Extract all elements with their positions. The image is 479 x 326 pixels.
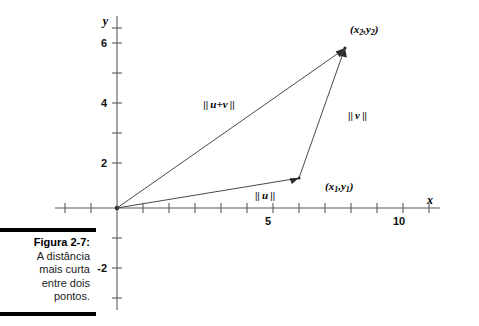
point-1-label: (x1,y1) [325,180,353,194]
caption-text: Figura 2-7: A distância mais curta entre… [0,232,96,304]
figure-page: 5 10 6 4 2 -2 x y || u+v || || v || || u… [0,0,479,326]
y-axis-label: y [101,14,109,28]
annotation-v: || v || [348,109,367,121]
caption-line-4: pontos. [0,290,90,304]
point-1-marker [297,176,300,179]
x-axis-label: x [426,193,433,207]
x-tick-label-5: 5 [265,215,271,227]
caption-line-2: mais curta [0,263,90,277]
x-tick-label-10: 10 [393,215,405,227]
caption-bottom-rule [0,312,96,316]
vector-v-line [299,51,344,179]
vector-u-arrowhead [290,178,299,184]
y-tick-label-4: 4 [101,97,108,109]
vector-u-plus-v-line [117,50,343,208]
caption-line-1: A distância [0,250,90,264]
annotation-u-plus-v: || u+v || [203,98,234,110]
y-tick-label-6: 6 [101,37,107,49]
annotation-u: || u || [255,189,275,201]
point-2-marker [343,46,346,49]
caption-line-3: entre dois [0,277,90,291]
point-2-label: (x2,y2) [350,23,378,37]
caption-title: Figura 2-7: [0,236,90,250]
y-tick-label-minus-2: -2 [97,262,107,274]
figure-caption-block: Figura 2-7: A distância mais curta entre… [0,228,96,304]
y-tick-label-2: 2 [101,157,107,169]
